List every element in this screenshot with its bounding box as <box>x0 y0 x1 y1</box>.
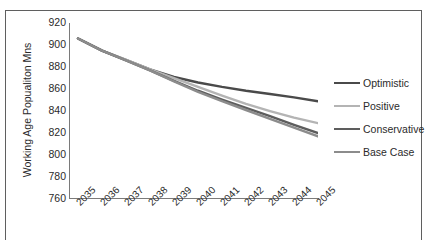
legend-label: Optimistic <box>363 78 409 89</box>
legend-item-conservative[interactable]: Conservative <box>334 122 424 136</box>
y-axis-title: Working Age Popualiton Mns <box>18 30 36 190</box>
y-axis-tick-840: 840 <box>40 105 66 116</box>
y-axis-tick-780: 780 <box>40 171 66 182</box>
legend-label: Base Case <box>363 147 414 158</box>
chart-legend: OptimisticPositiveConservativeBase Case <box>334 76 429 162</box>
y-axis-tick-820: 820 <box>40 127 66 138</box>
legend-swatch-icon <box>334 128 360 131</box>
legend-swatch-icon <box>334 82 360 85</box>
y-axis-tick-920: 920 <box>40 17 66 28</box>
legend-swatch-icon <box>334 105 360 108</box>
y-axis-tick-800: 800 <box>40 149 66 160</box>
legend-item-optimistic[interactable]: Optimistic <box>334 76 409 90</box>
y-axis-tick-860: 860 <box>40 83 66 94</box>
series-line-positive <box>78 39 318 124</box>
legend-item-base-case[interactable]: Base Case <box>334 145 414 159</box>
series-lines <box>70 22 318 198</box>
y-axis-tick-labels: 920900880860840820800780760 <box>38 0 66 233</box>
plot-area <box>70 22 318 198</box>
x-axis-tick-labels: 2035203620372038203920402041204220432044… <box>70 200 320 233</box>
chart-figure: Working Age Popualiton Mns 9209008808608… <box>0 0 429 233</box>
legend-label: Conservative <box>363 124 424 135</box>
legend-item-positive[interactable]: Positive <box>334 99 400 113</box>
legend-label: Positive <box>363 101 400 112</box>
y-axis-tick-880: 880 <box>40 61 66 72</box>
y-axis-tick-900: 900 <box>40 39 66 50</box>
legend-swatch-icon <box>334 151 360 154</box>
y-axis-tick-760: 760 <box>40 193 66 204</box>
